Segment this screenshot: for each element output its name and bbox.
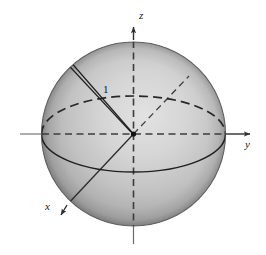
x-axis-arrow xyxy=(61,205,67,215)
y-axis-label: y xyxy=(244,138,250,150)
x-axis-label: x xyxy=(44,200,50,212)
radius-length-label: 1 xyxy=(103,83,109,95)
sphere-figure: z y x 1 xyxy=(0,0,266,255)
z-axis-label: z xyxy=(138,9,144,21)
sphere-diagram-canvas: z y x 1 xyxy=(0,0,266,255)
origin-point xyxy=(131,131,136,136)
